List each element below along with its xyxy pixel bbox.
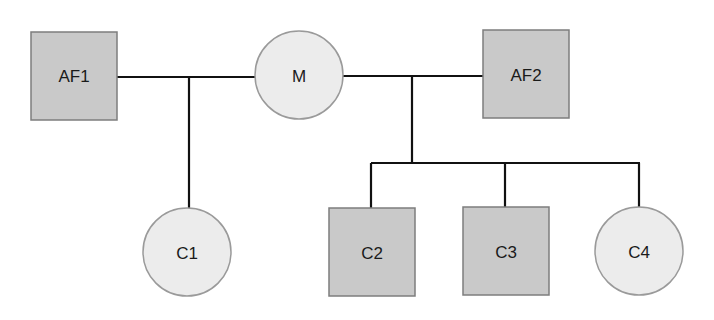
node-c2: C2: [329, 208, 415, 296]
node-c3: C3: [463, 207, 549, 295]
node-m: M: [255, 31, 343, 119]
node-label: M: [292, 67, 306, 86]
node-label: C1: [176, 244, 198, 263]
node-label: C4: [628, 243, 650, 262]
node-label: C2: [361, 244, 383, 263]
pedigree-diagram: AF1 M AF2 C1 C2 C3 C4: [0, 0, 714, 320]
node-label: AF2: [510, 66, 541, 85]
node-af2: AF2: [483, 30, 569, 118]
node-label: C3: [495, 243, 517, 262]
node-af1: AF1: [31, 32, 117, 120]
node-c1: C1: [143, 208, 231, 296]
node-c4: C4: [595, 207, 683, 295]
node-label: AF1: [58, 67, 89, 86]
